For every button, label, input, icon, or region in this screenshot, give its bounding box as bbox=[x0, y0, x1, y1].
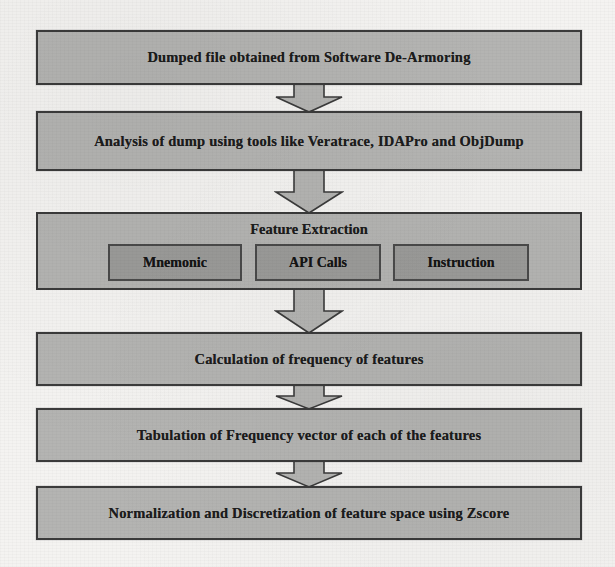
flow-node-dumped-file[interactable]: Dumped file obtained from Software De-Ar… bbox=[36, 30, 582, 85]
feature-subnode-api-calls[interactable]: API Calls bbox=[255, 244, 381, 281]
flow-node-feature-extraction[interactable]: Feature Extraction Mnemonic API Calls In… bbox=[36, 212, 582, 290]
connector-arrow-5 bbox=[274, 461, 344, 488]
feature-subnode-mnemonic[interactable]: Mnemonic bbox=[108, 244, 242, 281]
connector-arrow-4 bbox=[274, 385, 344, 410]
flow-node-label: Dumped file obtained from Software De-Ar… bbox=[147, 49, 470, 66]
flow-node-tabulation-of-frequency-vector[interactable]: Tabulation of Frequency vector of each o… bbox=[36, 408, 582, 462]
connector-arrow-3 bbox=[274, 289, 344, 334]
flow-node-label: Normalization and Discretization of feat… bbox=[108, 505, 509, 522]
feature-subnode-label: Instruction bbox=[428, 255, 495, 271]
connector-arrow-2 bbox=[274, 170, 344, 214]
feature-subnode-label: API Calls bbox=[289, 255, 347, 271]
flow-node-analysis-of-dump[interactable]: Analysis of dump using tools like Veratr… bbox=[36, 111, 582, 171]
connector-arrow-1 bbox=[274, 84, 344, 113]
feature-subnode-instruction[interactable]: Instruction bbox=[393, 244, 529, 281]
flow-node-calculation-of-frequency[interactable]: Calculation of frequency of features bbox=[36, 332, 582, 386]
flow-node-normalization-discretization[interactable]: Normalization and Discretization of feat… bbox=[36, 486, 582, 540]
flow-node-label: Tabulation of Frequency vector of each o… bbox=[137, 427, 482, 444]
feature-extraction-title: Feature Extraction bbox=[38, 221, 580, 238]
feature-subnode-label: Mnemonic bbox=[143, 255, 207, 271]
flowchart-canvas: Dumped file obtained from Software De-Ar… bbox=[0, 0, 615, 567]
flow-node-label: Calculation of frequency of features bbox=[195, 351, 424, 368]
flow-node-label: Analysis of dump using tools like Veratr… bbox=[94, 133, 524, 150]
